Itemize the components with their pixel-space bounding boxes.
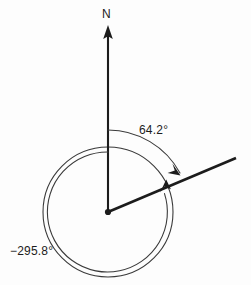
positive-angle-label: 64.2° — [139, 124, 168, 136]
bearing-diagram-svg — [0, 0, 251, 285]
negative-angle-label: −295.8° — [10, 245, 53, 257]
vertex-point — [105, 209, 111, 215]
bearing-diagram-canvas: N 64.2° −295.8° — [0, 0, 251, 285]
north-label: N — [102, 8, 111, 20]
